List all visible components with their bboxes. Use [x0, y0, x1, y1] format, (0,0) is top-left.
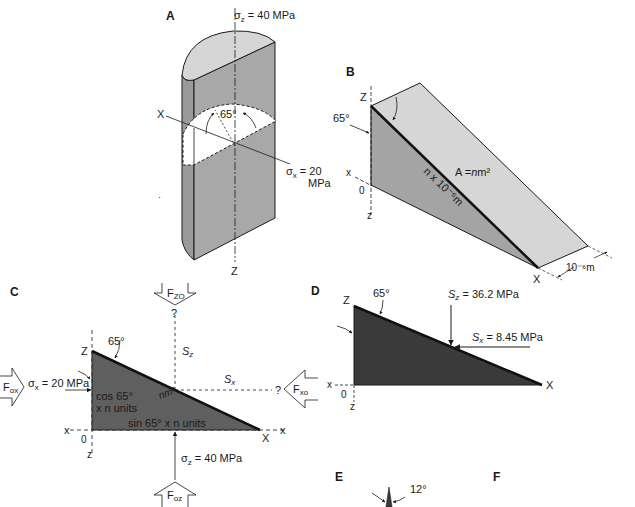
- b-axis-z: z: [367, 210, 372, 221]
- dim-arrow-2: [594, 252, 607, 258]
- panel-e: E 12°: [335, 470, 427, 507]
- d-angle-arrow-top: [380, 300, 383, 314]
- b-angle-label: 65°: [333, 112, 350, 124]
- b-angle-arrow-left: [350, 125, 369, 133]
- b-origin: 0: [359, 185, 365, 196]
- c-axis-x-right: x: [280, 424, 286, 436]
- c-sz-label: Sz: [182, 345, 193, 359]
- c-axis-z: z: [87, 449, 92, 460]
- c-axis-x-left: x: [64, 424, 70, 436]
- c-axis-Z: Z: [81, 345, 88, 357]
- c-question-top: ?: [171, 307, 177, 319]
- panel-c: C FZO Fox Fxo Foz ? ? Sz Sx σx = 20 MPa …: [0, 283, 318, 507]
- c-sx-label: Sx: [224, 373, 236, 387]
- d-angle-label: 65°: [373, 287, 390, 299]
- panel-f: F: [493, 470, 500, 484]
- d-axis-z: z: [350, 401, 355, 412]
- b-axis-x: x: [346, 167, 351, 178]
- e-angle-arrow-right: [393, 497, 405, 502]
- panel-b-label: B: [346, 65, 355, 79]
- axis-x-label: X: [157, 108, 165, 120]
- e-angle-label: 12°: [410, 483, 427, 495]
- b-axis-Z: Z: [360, 91, 367, 103]
- stress-diagram: A σz = 40 MPa X 65° Z σx = 20 MPa · B: [0, 0, 635, 507]
- d-axis-Z: Z: [343, 294, 350, 306]
- panel-c-label: C: [10, 285, 19, 299]
- axis-z-label: Z: [231, 265, 238, 277]
- sigma-x-unit: MPa: [308, 177, 332, 189]
- stray-dot: ·: [158, 192, 161, 202]
- c-angle-label: 65°: [108, 335, 125, 347]
- sigma-z-label: σz = 40 MPa: [234, 9, 296, 24]
- c-cos-line1: cos 65°: [96, 390, 133, 402]
- d-origin: 0: [341, 389, 347, 400]
- e-wedge: [386, 487, 392, 507]
- cylinder-curved-side: [182, 75, 194, 260]
- d-axis-X: X: [546, 379, 554, 391]
- angle-label: 65°: [220, 108, 237, 120]
- panel-a-label: A: [166, 9, 175, 23]
- panel-d: D Z 65° Sz = 36.2 MPa Sx = 8.45 MPa X x …: [311, 284, 554, 412]
- panel-b: B Z 65° x 0 z X A =nm² n x 10⁻⁶m 10⁻⁶m: [333, 65, 612, 285]
- c-origin: 0: [81, 434, 87, 445]
- b-depth-label: 10⁻⁶m: [566, 262, 595, 273]
- d-axis-x: x: [327, 379, 332, 390]
- e-angle-arrow-left: [372, 493, 385, 502]
- c-sin-label: sin 65° x n units: [128, 417, 206, 429]
- c-question-right: ?: [275, 384, 281, 396]
- panel-d-label: D: [311, 284, 320, 298]
- b-area-label: A =nm²: [455, 166, 491, 178]
- d-angle-arrow-left: [337, 326, 352, 333]
- panel-a: A σz = 40 MPa X 65° Z σx = 20 MPa ·: [157, 8, 332, 277]
- panel-e-label: E: [335, 470, 343, 484]
- c-cos-line2: x n units: [96, 402, 137, 414]
- dim-ext-1: [538, 268, 562, 280]
- dim-ext-2: [588, 246, 612, 258]
- b-axis-X: X: [533, 273, 541, 285]
- d-sz-label: Sz = 36.2 MPa: [448, 288, 520, 302]
- c-sigma-z-label: σz = 40 MPa: [181, 452, 243, 467]
- panel-f-label: F: [493, 470, 500, 484]
- c-axis-X: X: [262, 432, 270, 444]
- d-sx-label: Sx = 8.45 MPa: [472, 331, 544, 345]
